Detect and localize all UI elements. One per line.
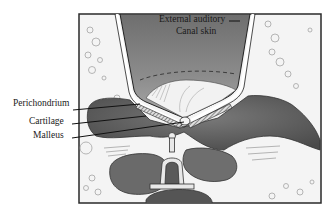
malleus xyxy=(180,117,190,125)
label-malleus: Malleus xyxy=(33,130,64,141)
label-perichondrium: Perichondrium xyxy=(13,98,69,109)
label-canal-skin: Canal skin xyxy=(176,26,216,37)
label-external-auditory: External auditory xyxy=(159,14,225,25)
label-cartilage: Cartilage xyxy=(29,116,64,127)
